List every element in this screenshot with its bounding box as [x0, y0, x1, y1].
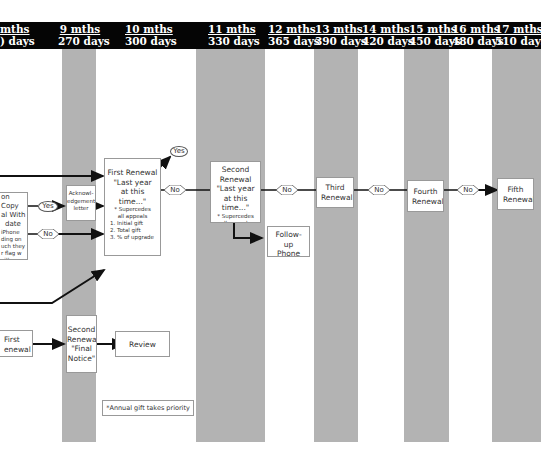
acknowledgement-letter-box: Acknowl- edgement letter	[66, 185, 96, 221]
first-renewal-title: First Renewal	[105, 168, 160, 178]
box-line: enewal	[4, 345, 32, 355]
second-renewal-note: * Supercedes all appeals	[211, 213, 260, 224]
decision-yes-badge: Yes	[38, 201, 58, 212]
box-line: r flag w	[1, 250, 27, 257]
first-renewal-item: 2. Total gift	[105, 227, 160, 234]
follow-up-phone-call-box: Follow-up Phone Call (4 weeks later)	[267, 226, 310, 257]
box-line: letter	[67, 205, 95, 213]
decision-no-label: No	[164, 185, 186, 195]
third-renewal-title: Third Renewal	[317, 183, 353, 202]
decision-no-badge: No	[37, 229, 59, 239]
box-line: al With	[1, 211, 27, 220]
box-line: edgement	[67, 198, 95, 206]
box-line: ding on	[1, 236, 27, 243]
box-line: Acknowl-	[67, 190, 95, 198]
fourth-renewal-box: Fourth Renewal	[407, 180, 444, 212]
box-line: on Copy	[1, 193, 27, 211]
decision-no-label: No	[457, 185, 479, 195]
annual-gift-note: *Annual gift takes priority	[102, 400, 194, 416]
first-renewal-item: 1. Initial gift	[105, 220, 160, 227]
follow-up-title: Follow-up Phone Call	[268, 230, 309, 257]
first-renewal-item: 3. % of upgrade	[105, 234, 160, 241]
box-line: First	[4, 335, 32, 345]
fourth-renewal-no-badge: No	[457, 185, 479, 195]
box-line: date	[1, 220, 27, 229]
second-renewal-box: Second Renewal "Last year at this time..…	[210, 161, 261, 223]
box-line: ail)	[1, 257, 27, 260]
box-line: uch they	[1, 243, 27, 250]
first-renewal-box: First Renewal "Last year at this time...…	[104, 158, 161, 256]
fourth-renewal-title: Fourth Renewal	[408, 187, 443, 206]
second-renewal-title: Second Renewal	[211, 165, 260, 184]
fifth-renewal-box: Fifth Renewal	[497, 178, 534, 210]
first-renewal-note: * Supercedes all appeals	[105, 206, 160, 220]
box-line: Notice"	[67, 354, 96, 364]
second-renewal-no-badge: No	[276, 185, 298, 195]
second-renewal-final-notice-box: Second Renewal "Final Notice"	[66, 315, 97, 373]
box-line: "Final	[67, 344, 96, 354]
partial-confirmation-box: on Copy al With date iPhone ding on uch …	[0, 192, 28, 260]
review-title: Review	[116, 340, 169, 350]
first-renewal-quote: "Last year at this time..."	[105, 178, 160, 207]
second-renewal-quote: "Last year at this time..."	[211, 184, 260, 213]
third-renewal-no-badge: No	[368, 185, 390, 195]
decision-no-label: No	[37, 229, 59, 239]
decision-no-label: No	[368, 185, 390, 195]
box-line: Renewal	[67, 335, 96, 345]
first-renewal-partial-box: First enewal	[0, 330, 33, 357]
decision-no-label: No	[276, 185, 298, 195]
annual-gift-note-text: *Annual gift takes priority	[103, 404, 193, 414]
review-box: Review	[115, 331, 170, 357]
box-line: iPhone	[1, 229, 27, 236]
first-renewal-no-badge: No	[164, 185, 186, 195]
box-line: Second	[67, 325, 96, 335]
first-renewal-yes-badge: Yes	[170, 146, 188, 157]
third-renewal-box: Third Renewal	[316, 177, 354, 208]
fifth-renewal-title: Fifth Renewal	[498, 185, 533, 204]
